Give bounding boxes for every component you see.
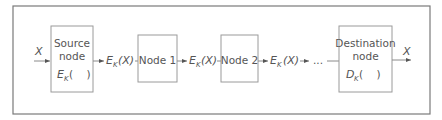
source-node: Source node E K ( ) bbox=[51, 26, 93, 92]
edge-label-1-arg: (X) bbox=[118, 54, 134, 67]
source-node-func-args: ( ) bbox=[69, 68, 91, 80]
edge-label-1-main: E bbox=[106, 54, 113, 67]
output-label: X bbox=[402, 45, 411, 58]
node-2-label: Node 2 bbox=[221, 54, 258, 66]
node-2: Node 2 bbox=[221, 35, 258, 82]
destination-node-func-args: ( ) bbox=[359, 68, 381, 80]
edge-label-3-main: E bbox=[270, 54, 277, 67]
source-node-subtitle: node bbox=[59, 50, 85, 62]
destination-node: Destination node D K ( ) bbox=[335, 26, 395, 92]
pipeline-diagram: X Source node E K ( ) E K (X) Node 1 E K… bbox=[0, 0, 442, 120]
node-1: Node 1 bbox=[138, 35, 177, 82]
edge-label-2-arg: (X) bbox=[201, 54, 217, 67]
ellipsis: ... bbox=[313, 54, 323, 66]
edge-label-3-arg: (X) bbox=[283, 54, 299, 67]
source-node-title: Source bbox=[54, 37, 90, 49]
input-label: X bbox=[34, 45, 43, 58]
destination-node-subtitle: node bbox=[352, 50, 378, 62]
edge-label-2-main: E bbox=[189, 54, 196, 67]
node-1-label: Node 1 bbox=[139, 54, 176, 66]
destination-node-title: Destination bbox=[335, 37, 395, 49]
source-node-func: E bbox=[57, 68, 64, 81]
